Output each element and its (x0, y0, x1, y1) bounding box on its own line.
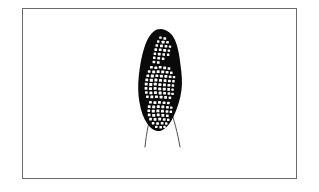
figure-svg (0, 0, 319, 192)
illustration-canvas (0, 0, 319, 192)
